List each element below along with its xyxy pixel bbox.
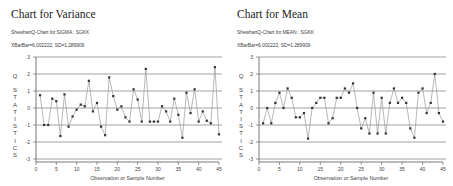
data-point-marker	[278, 92, 280, 94]
y-axis-label-letter: I	[240, 116, 242, 122]
y-tick-label: -3	[26, 156, 31, 162]
y-axis-label-letter: C	[13, 145, 18, 151]
data-point-marker	[137, 98, 139, 100]
y-axis-label-letter: I	[14, 138, 16, 144]
x-tick-label: 15	[94, 166, 100, 172]
data-point-marker	[55, 100, 57, 102]
data-point-marker	[84, 105, 86, 107]
data-point-marker	[177, 114, 179, 116]
y-axis-label-letter: S	[239, 87, 243, 93]
data-point-marker	[344, 87, 346, 89]
data-point-marker	[189, 112, 191, 114]
data-point-marker	[340, 97, 342, 99]
y-tick-label: 3	[27, 54, 30, 60]
data-point-marker	[210, 122, 212, 124]
data-point-marker	[149, 121, 151, 123]
y-axis-label-letter: S	[13, 123, 17, 129]
data-point-marker	[63, 93, 65, 95]
data-point-marker	[295, 116, 297, 118]
variance-chart-plot: 3210-1-2-3051015202530354045Observation …	[0, 0, 226, 186]
y-axis-label-letter: S	[239, 152, 243, 158]
y-axis-label-letter: C	[239, 145, 244, 151]
data-point-marker	[161, 105, 163, 107]
data-point-marker	[181, 137, 183, 139]
data-point-marker	[401, 97, 403, 99]
data-point-marker	[442, 121, 444, 123]
data-point-marker	[291, 97, 293, 99]
y-tick-label: 2	[250, 71, 253, 77]
data-point-marker	[287, 87, 289, 89]
data-point-marker	[80, 104, 82, 106]
x-tick-label: 45	[216, 166, 222, 172]
x-tick-label: 15	[318, 166, 324, 172]
x-axis-label: Observation or Sample Number	[314, 175, 389, 181]
data-point-marker	[417, 92, 419, 94]
data-point-marker	[194, 88, 196, 90]
data-point-marker	[185, 92, 187, 94]
data-point-marker	[202, 110, 204, 112]
y-tick-label: 0	[250, 105, 253, 111]
data-point-marker	[430, 102, 432, 104]
y-tick-label: 1	[27, 88, 30, 94]
y-axis-label-letter: T	[239, 130, 243, 136]
y-axis-label-letter: S	[13, 152, 17, 158]
data-point-marker	[108, 76, 110, 78]
data-point-marker	[389, 102, 391, 104]
variance-chart-panel: Chart for Variance ShewhartQ-Chart for S…	[0, 0, 226, 186]
data-point-marker	[368, 132, 370, 134]
data-point-marker	[376, 132, 378, 134]
data-point-marker	[100, 126, 102, 128]
y-tick-label: 0	[27, 105, 30, 111]
data-point-marker	[336, 97, 338, 99]
x-tick-label: 20	[338, 166, 344, 172]
y-tick-label: -2	[26, 139, 31, 145]
data-point-marker	[421, 87, 423, 89]
x-tick-label: 40	[420, 166, 426, 172]
x-tick-label: 0	[35, 166, 38, 172]
x-tick-label: 25	[135, 166, 141, 172]
data-point-marker	[104, 134, 106, 136]
data-point-marker	[315, 102, 317, 104]
data-point-marker	[112, 95, 114, 97]
x-axis-label: Observation or Sample Number	[90, 175, 165, 181]
data-point-marker	[153, 121, 155, 123]
x-tick-label: 5	[278, 166, 281, 172]
data-point-marker	[426, 112, 428, 114]
data-point-marker	[128, 121, 130, 123]
data-point-marker	[405, 102, 407, 104]
data-point-marker	[266, 107, 268, 109]
data-point-marker	[59, 135, 61, 137]
data-point-marker	[218, 133, 220, 135]
data-point-marker	[116, 109, 118, 111]
y-axis-label-letter: Q	[13, 73, 18, 79]
data-point-marker	[311, 107, 313, 109]
data-point-marker	[413, 137, 415, 139]
data-point-marker	[72, 115, 74, 117]
x-tick-label: 10	[74, 166, 80, 172]
data-point-marker	[393, 87, 395, 89]
y-axis-label-letter: A	[13, 102, 17, 108]
data-point-marker	[372, 92, 374, 94]
x-tick-label: 20	[115, 166, 121, 172]
data-point-marker	[381, 97, 383, 99]
y-tick-label: -1	[26, 122, 31, 128]
y-axis-label-letter: Q	[239, 73, 244, 79]
data-point-marker	[96, 102, 98, 104]
data-point-marker	[299, 116, 301, 118]
y-axis-label-letter: T	[13, 130, 17, 136]
x-tick-label: 45	[440, 166, 446, 172]
x-tick-label: 10	[297, 166, 303, 172]
data-point-marker	[120, 105, 122, 107]
y-axis-label-letter: S	[239, 123, 243, 129]
data-point-marker	[360, 127, 362, 129]
x-tick-label: 40	[196, 166, 202, 172]
data-point-marker	[307, 138, 309, 140]
series-line	[40, 67, 219, 138]
x-tick-label: 30	[379, 166, 385, 172]
data-point-marker	[206, 120, 208, 122]
y-tick-label: -1	[249, 122, 254, 128]
data-point-marker	[43, 124, 45, 126]
data-point-marker	[319, 97, 321, 99]
x-tick-label: 5	[55, 166, 58, 172]
data-point-marker	[47, 124, 49, 126]
